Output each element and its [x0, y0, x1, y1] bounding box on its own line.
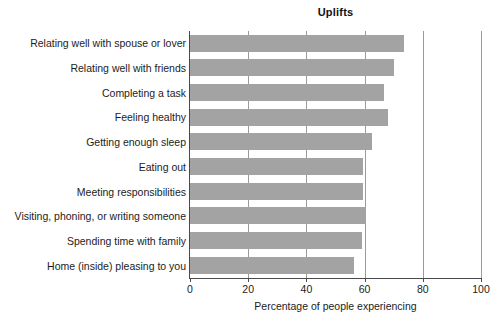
category-label: Visiting, phoning, or writing someone — [4, 210, 186, 222]
bar — [190, 84, 384, 101]
x-tick-label: 100 — [461, 283, 501, 295]
chart-title-text: Uplifts — [318, 6, 354, 18]
x-tick-mark — [306, 278, 307, 282]
bar-chart: Uplifts Relating well with spouse or lov… — [0, 0, 501, 320]
x-tick-mark — [365, 278, 366, 282]
bar — [190, 183, 363, 200]
bar — [190, 35, 404, 52]
category-label: Spending time with family — [4, 235, 186, 247]
bar — [190, 257, 354, 274]
category-label: Feeling healthy — [4, 111, 186, 123]
category-label: Relating well with friends — [4, 62, 186, 74]
x-tick-label: 0 — [170, 283, 210, 295]
bar — [190, 232, 362, 249]
x-tick-label: 80 — [403, 283, 443, 295]
category-label: Getting enough sleep — [4, 136, 186, 148]
x-axis-line — [189, 278, 481, 279]
bar — [190, 109, 388, 126]
bar — [190, 133, 372, 150]
x-tick-mark — [423, 278, 424, 282]
x-tick-label: 20 — [228, 283, 268, 295]
x-tick-label: 60 — [345, 283, 385, 295]
category-label: Completing a task — [4, 87, 186, 99]
chart-title: Uplifts — [0, 6, 501, 18]
category-label: Eating out — [4, 161, 186, 173]
bar — [190, 158, 363, 175]
x-axis-title: Percentage of people experiencing — [190, 300, 481, 312]
bar — [190, 59, 394, 76]
x-tick-mark — [248, 278, 249, 282]
x-tick-label: 40 — [286, 283, 326, 295]
x-tick-mark — [481, 278, 482, 282]
x-gridline — [481, 31, 482, 278]
x-gridline — [423, 31, 424, 278]
category-label: Meeting responsibilities — [4, 186, 186, 198]
y-axis-category-labels: Relating well with spouse or loverRelati… — [0, 31, 186, 278]
plot-area — [190, 31, 481, 278]
bar — [190, 207, 366, 224]
x-tick-mark — [190, 278, 191, 282]
category-label: Home (inside) pleasing to you — [4, 260, 186, 272]
category-label: Relating well with spouse or lover — [4, 37, 186, 49]
